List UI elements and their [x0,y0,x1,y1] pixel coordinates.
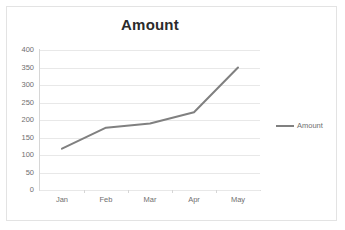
x-axis-tick-mark [172,190,173,193]
y-axis-tick-label: 400 [8,46,34,54]
x-axis-tick-label: Jan [40,196,84,204]
y-axis-tick-label: 300 [8,81,34,89]
chart-legend: Amount [276,122,323,130]
y-axis-tick-label: 350 [8,64,34,72]
x-axis-tick-label: Apr [172,196,216,204]
series-polyline [62,68,238,149]
x-axis-tick-label: Feb [84,196,128,204]
y-axis-tick-label: 50 [8,169,34,177]
y-axis-tick-label: 200 [8,116,34,124]
chart-container: Amount 050100150200250300350400 JanFebMa… [0,0,345,230]
x-axis-tick-label: May [216,196,260,204]
legend-swatch-icon [276,125,294,127]
x-axis-tick-mark [128,190,129,193]
y-axis-tick-label: 0 [8,186,34,194]
y-axis-tick-label: 250 [8,99,34,107]
legend-label-amount: Amount [297,122,323,130]
x-axis-tick-mark [84,190,85,193]
x-axis-tick-mark [216,190,217,193]
y-axis-tick-labels: 050100150200250300350400 [6,50,34,190]
gridline [40,190,260,191]
plot-area [40,50,260,190]
y-axis-tick-label: 100 [8,151,34,159]
y-axis-tick-label: 150 [8,134,34,142]
chart-title: Amount [40,16,260,33]
series-line-amount [40,50,260,190]
x-axis-tick-label: Mar [128,196,172,204]
